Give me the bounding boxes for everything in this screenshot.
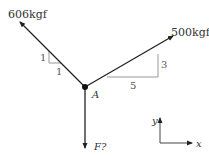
right-slope-run: 5 [130,80,136,91]
coordinate-axes [160,118,192,143]
force-label-500kgf: 500kgf [171,26,209,39]
left-slope-rise: 1 [40,52,46,63]
point-a-label: A [91,89,99,100]
force-label-f: F? [93,141,107,152]
point-a-dot [82,84,88,90]
left-slope-run: 1 [56,66,62,77]
right-slope-triangle [107,54,158,77]
x-axis-label: x [196,138,202,149]
force-label-606kgf: 606kgf [8,8,48,21]
force-arrow-606kgf [20,22,85,87]
force-diagram: 1 1 3 5 A 606kgf 500kgf F? y x [0,0,209,156]
right-slope-rise: 3 [161,59,167,70]
y-axis-label: y [151,115,158,126]
force-arrow-500kgf [85,36,173,87]
